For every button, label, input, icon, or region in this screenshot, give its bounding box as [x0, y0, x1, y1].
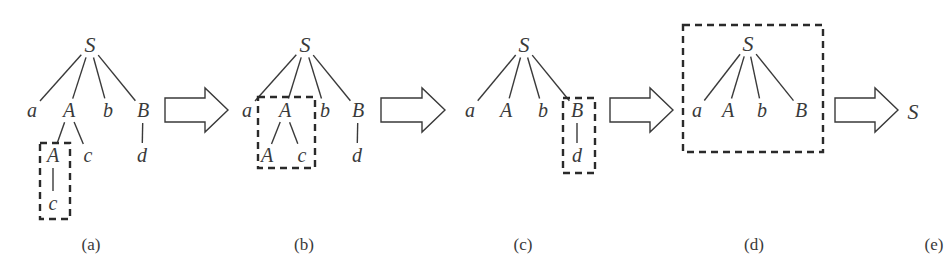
tree-node-c: c	[49, 193, 58, 213]
tree-edge	[528, 58, 540, 99]
tree-node-A: A	[279, 100, 291, 120]
tree-node-b: b	[103, 100, 113, 120]
tree-node-a: a	[465, 100, 475, 120]
tree-node-c: c	[84, 145, 93, 165]
parse-tree-reduction-figure: SaAbBAcdc(a)SaAbBAcd(b)SaAbBd(c)SaAbB(d)…	[0, 0, 949, 276]
tree-node-A: A	[261, 145, 273, 165]
tree-node-d: d	[572, 145, 582, 165]
tree-node-A: A	[722, 100, 734, 120]
tree-node-S: S	[85, 34, 96, 56]
tree-edge	[751, 57, 760, 99]
tree-node-B: B	[137, 100, 149, 120]
tree-edge	[756, 54, 793, 101]
tree-node-b: b	[538, 100, 548, 120]
tree-edge	[509, 58, 520, 99]
tree-edge	[40, 55, 81, 101]
tree-node-S: S	[300, 34, 311, 56]
tree-edge	[704, 54, 740, 100]
tree-node-a: a	[27, 100, 37, 120]
tree-node-A: A	[47, 145, 59, 165]
panel-caption: (b)	[294, 236, 314, 253]
right-arrow-icon	[165, 88, 228, 132]
tree-edge	[73, 57, 86, 98]
tree-node-A: A	[63, 100, 75, 120]
right-arrow-icon	[381, 88, 445, 132]
tree-edge	[272, 122, 281, 144]
tree-node-A: A	[500, 100, 512, 120]
tree-node-B: B	[795, 100, 807, 120]
tree-node-S: S	[908, 101, 919, 123]
edges-layer	[0, 0, 949, 276]
tree-node-B: B	[352, 100, 364, 120]
tree-node-b: b	[320, 100, 330, 120]
tree-edge	[290, 122, 298, 144]
tree-node-S: S	[743, 33, 754, 55]
tree-node-b: b	[757, 100, 767, 120]
tree-edge	[289, 57, 302, 98]
tree-node-d: d	[352, 145, 362, 165]
tree-edge	[57, 122, 65, 144]
tree-edge	[74, 122, 83, 144]
panel-caption: (a)	[82, 236, 101, 253]
right-arrow-icon	[835, 88, 898, 132]
panel-caption: (d)	[744, 236, 764, 253]
tree-node-a: a	[692, 100, 702, 120]
right-arrow-icon	[610, 88, 673, 132]
tree-edge	[94, 58, 105, 99]
tree-node-a: a	[242, 100, 252, 120]
panel-caption: (e)	[925, 236, 944, 253]
panel-caption: (c)	[514, 236, 533, 253]
tree-node-S: S	[519, 34, 530, 56]
tree-node-d: d	[137, 145, 147, 165]
tree-node-B: B	[571, 100, 583, 120]
tree-node-c: c	[298, 145, 307, 165]
tree-edge	[313, 55, 350, 101]
